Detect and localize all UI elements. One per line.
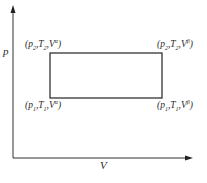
corner-label-top-right: (p2,T2,Vβ) [157,40,193,50]
corner-label-top-left: (p2,T2,Vα) [25,40,61,50]
corner-label-bottom-right: (p1,T1,Vβ) [157,101,193,111]
x-axis-arrow-icon [185,156,193,161]
cycle-rectangle [50,53,162,98]
y-axis-label: p [3,46,9,57]
y-axis-arrow-icon [11,5,16,13]
x-axis-label: V [100,160,107,171]
corner-label-bottom-left: (p1,T1,Vα) [25,101,61,111]
diagram-canvas [0,0,207,183]
